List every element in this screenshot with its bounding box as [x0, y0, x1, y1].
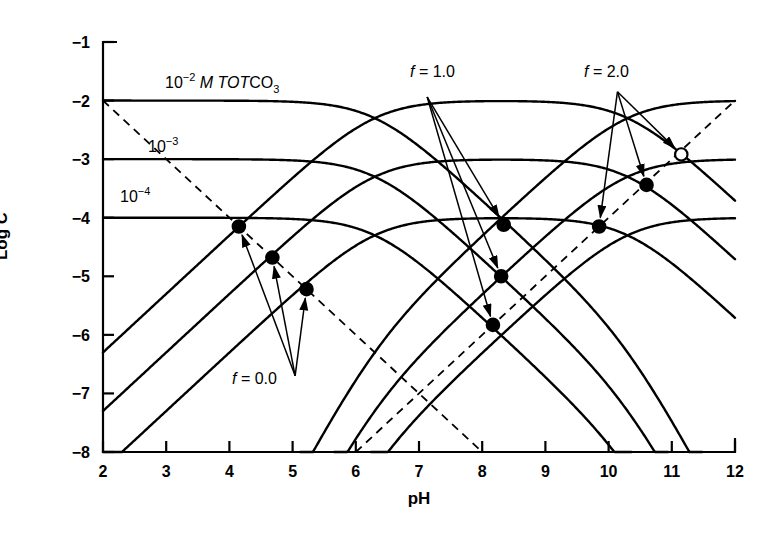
y-tick-label: −2 — [72, 93, 90, 110]
equivalence-point-open — [675, 148, 687, 160]
species-curve-1-0 — [103, 159, 668, 452]
x-tick-label: 9 — [541, 463, 550, 480]
species-curve-1-1 — [103, 160, 735, 411]
x-tick-label: 12 — [726, 463, 744, 480]
equivalence-point-filled — [640, 179, 652, 191]
species-curve-0-1 — [103, 101, 735, 352]
species-curve-2-0 — [103, 218, 631, 452]
x-tick-label: 6 — [351, 463, 360, 480]
species-curve-0-0 — [103, 101, 702, 452]
annotation-arrow-0-2 — [295, 298, 305, 376]
x-tick-label: 10 — [600, 463, 618, 480]
y-tick-label: −6 — [72, 327, 90, 344]
equivalence-point-filled — [487, 319, 499, 331]
x-tick-label: 8 — [478, 463, 487, 480]
species-curve-0-2 — [300, 101, 735, 452]
y-tick-label: −8 — [72, 444, 90, 461]
y-tick-label: −5 — [72, 268, 90, 285]
annotation-arrow-0-1 — [274, 266, 295, 375]
chart-canvas: −1−2−3−4−5−6−7−823456789101112pH10−2 M T… — [0, 0, 775, 541]
x-tick-label: 2 — [99, 463, 108, 480]
annotation-arrow-1-0 — [427, 97, 499, 217]
axis-frame — [103, 42, 735, 452]
x-tick-label: 3 — [162, 463, 171, 480]
x-tick-label: 5 — [288, 463, 297, 480]
y-axis-title-prefix: Log — [0, 224, 11, 260]
equivalence-point-filled — [495, 270, 507, 282]
equivalence-point-filled — [497, 219, 509, 231]
curve-label-tot-2: 10−2 M TOTCO3 — [165, 71, 279, 95]
x-tick-label: 7 — [415, 463, 424, 480]
curve-label-tot-4: 10−4 — [120, 185, 150, 205]
equivalence-point-filled — [593, 220, 605, 232]
y-tick-label: −3 — [72, 151, 90, 168]
y-tick-label: −4 — [72, 210, 90, 227]
annotation-label-f0: f = 0.0 — [232, 370, 277, 387]
y-tick-label: −7 — [72, 385, 90, 402]
equivalence-point-filled — [266, 251, 278, 263]
annotation-label-f1: f = 1.0 — [410, 63, 455, 80]
curve-label-tot-3: 10−3 — [148, 135, 178, 155]
x-tick-label: 11 — [663, 463, 680, 480]
x-axis-title: pH — [408, 489, 431, 508]
annotation-arrow-1-2 — [427, 97, 490, 316]
y-axis-title-symbol: C — [0, 212, 11, 224]
annotation-label-f2: f = 2.0 — [584, 63, 629, 80]
x-tick-label: 4 — [225, 463, 234, 480]
species-curve-2-2 — [371, 218, 735, 452]
equivalence-point-filled — [300, 283, 312, 295]
y-axis-title: Log C — [0, 212, 12, 260]
equivalence-point-filled — [233, 220, 245, 232]
y-tick-label: −1 — [72, 34, 90, 51]
log-c-ph-diagram: −1−2−3−4−5−6−7−823456789101112pH10−2 M T… — [0, 0, 775, 541]
